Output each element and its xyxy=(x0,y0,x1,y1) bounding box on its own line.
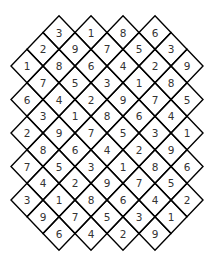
grid-cell[interactable]: 4 xyxy=(113,58,133,74)
grid-cell[interactable]: 4 xyxy=(145,192,165,208)
grid-cell[interactable]: 6 xyxy=(113,192,133,208)
grid-cell[interactable]: 8 xyxy=(49,58,69,74)
grid-cell[interactable]: 3 xyxy=(97,75,117,91)
grid-cell[interactable]: 9 xyxy=(177,58,197,74)
grid-cell[interactable]: 1 xyxy=(177,125,197,141)
grid-cell[interactable]: 1 xyxy=(81,25,101,41)
grid-cell[interactable]: 8 xyxy=(97,108,117,124)
grid-cell[interactable]: 2 xyxy=(177,192,197,208)
grid-cell[interactable]: 5 xyxy=(49,159,69,175)
grid-cell[interactable]: 9 xyxy=(161,142,181,158)
grid-cell[interactable]: 9 xyxy=(113,92,133,108)
grid-cell[interactable]: 7 xyxy=(65,209,85,225)
grid-cell[interactable]: 5 xyxy=(177,92,197,108)
grid-cell[interactable]: 4 xyxy=(161,108,181,124)
grid-cell[interactable]: 3 xyxy=(129,209,149,225)
grid-cell[interactable]: 4 xyxy=(33,175,53,191)
grid-cell[interactable]: 3 xyxy=(145,125,165,141)
grid-cell[interactable]: 5 xyxy=(129,41,149,57)
grid-cell[interactable]: 6 xyxy=(17,92,37,108)
puzzle-board: 3186297531864297531864297531864297531864… xyxy=(0,0,216,266)
grid-cell[interactable]: 2 xyxy=(129,142,149,158)
grid-cell[interactable]: 6 xyxy=(129,108,149,124)
grid-cell[interactable]: 1 xyxy=(65,108,85,124)
grid-cell[interactable]: 1 xyxy=(49,192,69,208)
grid-cell[interactable]: 6 xyxy=(177,159,197,175)
grid-cell[interactable]: 6 xyxy=(145,25,165,41)
grid-cell[interactable]: 4 xyxy=(81,226,101,242)
grid-cell[interactable]: 2 xyxy=(33,41,53,57)
grid-cell[interactable]: 7 xyxy=(129,175,149,191)
grid-cell[interactable]: 9 xyxy=(33,209,53,225)
grid-cell[interactable]: 2 xyxy=(81,92,101,108)
grid-cell[interactable]: 9 xyxy=(65,41,85,57)
grid-cell[interactable]: 2 xyxy=(65,175,85,191)
grid-cell[interactable]: 5 xyxy=(97,209,117,225)
grid-cell[interactable]: 3 xyxy=(49,25,69,41)
grid-cell[interactable]: 8 xyxy=(145,159,165,175)
grid-cell[interactable]: 8 xyxy=(113,25,133,41)
grid-cell[interactable]: 8 xyxy=(33,142,53,158)
grid-cell[interactable]: 5 xyxy=(65,75,85,91)
grid-cell[interactable]: 9 xyxy=(49,125,69,141)
grid-cell[interactable]: 8 xyxy=(161,75,181,91)
grid-cell[interactable]: 2 xyxy=(113,226,133,242)
grid-cell[interactable]: 1 xyxy=(161,209,181,225)
grid-cell[interactable]: 5 xyxy=(161,175,181,191)
grid-cell[interactable]: 7 xyxy=(17,159,37,175)
grid-cell[interactable]: 7 xyxy=(81,125,101,141)
grid-cell[interactable]: 2 xyxy=(17,125,37,141)
grid-cell[interactable]: 5 xyxy=(113,125,133,141)
grid-cell[interactable]: 9 xyxy=(97,175,117,191)
grid-cell[interactable]: 7 xyxy=(145,92,165,108)
grid-cell[interactable]: 7 xyxy=(33,75,53,91)
grid-cell[interactable]: 6 xyxy=(81,58,101,74)
grid-cell[interactable]: 4 xyxy=(97,142,117,158)
grid-cell[interactable]: 6 xyxy=(65,142,85,158)
grid-cell[interactable]: 1 xyxy=(113,159,133,175)
grid-cell[interactable]: 1 xyxy=(17,58,37,74)
grid-cell[interactable]: 6 xyxy=(49,226,69,242)
grid-cell[interactable]: 1 xyxy=(129,75,149,91)
grid-cell[interactable]: 3 xyxy=(81,159,101,175)
grid-cell[interactable]: 3 xyxy=(33,108,53,124)
grid-cell[interactable]: 4 xyxy=(49,92,69,108)
grid-cell[interactable]: 9 xyxy=(145,226,165,242)
grid-cell[interactable]: 3 xyxy=(17,192,37,208)
grid-cell[interactable]: 2 xyxy=(145,58,165,74)
grid-cell[interactable]: 7 xyxy=(97,41,117,57)
grid-cell[interactable]: 3 xyxy=(161,41,181,57)
grid-cell[interactable]: 8 xyxy=(81,192,101,208)
